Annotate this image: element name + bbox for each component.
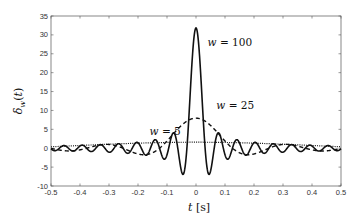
y-tick-label: 5 xyxy=(44,125,48,134)
curves xyxy=(51,28,341,174)
x-tick-label: -0.3 xyxy=(103,188,116,197)
y-tick-label: 30 xyxy=(40,30,48,39)
y-axis-label: δw(t) xyxy=(12,88,27,115)
x-tick-label: 0.2 xyxy=(249,188,259,197)
y-tick-label: 15 xyxy=(40,87,48,96)
y-tick-label: 0 xyxy=(44,144,48,153)
x-tick-label: 0.3 xyxy=(278,188,288,197)
x-tick-label: 0 xyxy=(194,188,198,197)
series-solid-line xyxy=(51,28,341,174)
y-tick-label: -10 xyxy=(37,182,48,191)
x-tick-label: 0.5 xyxy=(336,188,346,197)
annotation-label: w = 100 xyxy=(208,36,253,48)
x-axis-label: t [s] xyxy=(188,201,210,214)
chart: -0.5-0.4-0.3-0.2-0.100.10.20.30.40.5-10-… xyxy=(0,0,363,222)
y-tick-label: 25 xyxy=(40,49,48,58)
x-tick-label: -0.4 xyxy=(74,188,87,197)
x-tick-label: 0.1 xyxy=(220,188,230,197)
annotation-label: w = 25 xyxy=(216,99,254,111)
x-tick-label: -0.2 xyxy=(132,188,145,197)
x-tick-label: 0.4 xyxy=(307,188,317,197)
plot-frame xyxy=(51,16,341,186)
x-tick-label: -0.1 xyxy=(161,188,174,197)
y-tick-label: -5 xyxy=(41,163,48,172)
annotation-label: w = 5 xyxy=(150,125,181,137)
axes: -0.5-0.4-0.3-0.2-0.100.10.20.30.40.5-10-… xyxy=(37,12,346,197)
y-tick-label: 10 xyxy=(40,106,48,115)
y-tick-label: 35 xyxy=(40,12,48,21)
y-tick-label: 20 xyxy=(40,68,48,77)
